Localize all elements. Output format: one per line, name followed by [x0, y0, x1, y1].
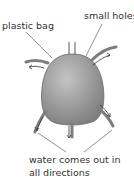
water-label-line2: all directions — [29, 167, 90, 179]
plastic-bag-shape — [42, 54, 104, 125]
small-holes-label: small holes — [84, 10, 134, 22]
water-label-line1: water comes out in — [29, 154, 120, 166]
plastic-bag-label: plastic bag — [2, 20, 54, 32]
